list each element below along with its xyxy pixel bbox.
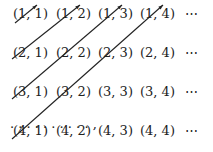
diagonal-line [12, 5, 163, 139]
diagonal-arrows [0, 0, 213, 152]
diagonal-enumeration-diagram: (1, 1)(1, 2)(1, 3)(1, 4)⋯(2, 1)(2, 2)(2,… [0, 0, 213, 152]
diagonal-line [12, 5, 80, 59]
diagonal-line [12, 5, 122, 99]
